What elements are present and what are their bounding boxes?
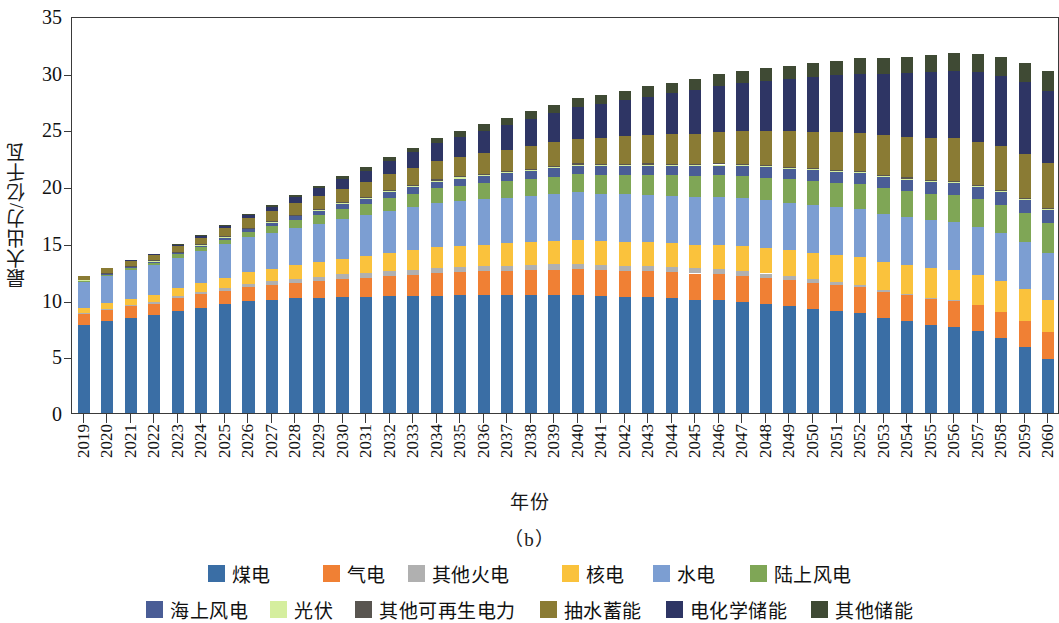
x-axis-tick (1024, 414, 1025, 423)
bar-segment (383, 192, 395, 198)
bar-segment (713, 163, 725, 164)
bar-segment (454, 295, 466, 413)
legend-item[interactable]: 海上风电 (146, 596, 248, 623)
legend-item[interactable]: 其他储能 (811, 596, 913, 623)
bar-segment (548, 142, 560, 166)
legend-item[interactable]: 光伏 (270, 596, 333, 623)
bar-segment (242, 237, 254, 272)
x-axis-tick-label: 2060 (1038, 424, 1058, 458)
x-axis-tick (342, 414, 343, 423)
bar-stack (313, 16, 325, 413)
bar-segment (289, 215, 301, 216)
legend-item[interactable]: 其他可再生电力 (355, 596, 516, 623)
bar-segment (501, 266, 513, 271)
x-axis-tick (271, 414, 272, 423)
bar-segment (1019, 198, 1031, 199)
bar-segment (548, 168, 560, 176)
bar-segment (125, 268, 137, 270)
bar-segment (501, 125, 513, 150)
legend-item[interactable]: 抽水蓄能 (540, 596, 642, 623)
bar-segment (901, 179, 913, 180)
bar-segment (736, 198, 748, 246)
bar-segment (407, 148, 419, 153)
bar-segment (572, 240, 584, 264)
y-axis-tick-label: 20 (18, 176, 62, 199)
bar-segment (266, 207, 278, 212)
bar-segment (642, 86, 654, 96)
bar-segment (830, 285, 842, 311)
legend-item[interactable]: 核电 (562, 560, 625, 587)
legend-item[interactable]: 煤电 (208, 560, 271, 587)
bar-segment (289, 220, 301, 228)
bar-segment (525, 146, 537, 169)
x-axis-tick-label: 2057 (968, 424, 988, 458)
legend-item[interactable]: 气电 (323, 560, 386, 587)
bar-segment (360, 171, 372, 182)
bar-segment (619, 166, 631, 175)
bar-segment (478, 183, 490, 199)
bar-segment (948, 71, 960, 138)
bar-segment (431, 268, 443, 273)
bar-segment (572, 98, 584, 107)
bar-segment (807, 181, 819, 205)
bar-segment (619, 266, 631, 271)
bar-segment (807, 279, 819, 282)
bar-segment (478, 245, 490, 267)
bar-segment (572, 165, 584, 166)
bar-segment (689, 268, 701, 273)
bar-segment (995, 205, 1007, 233)
bar-stack (501, 16, 513, 413)
legend-swatch-icon (270, 601, 287, 618)
bar-segment (642, 271, 654, 297)
bar-stack (807, 16, 819, 413)
bar-segment (619, 271, 631, 297)
legend-label: 其他储能 (835, 596, 913, 623)
bar-segment (548, 194, 560, 241)
legend-item[interactable]: 其他火电 (408, 560, 510, 587)
bar-segment (431, 143, 443, 161)
bar-segment (877, 290, 889, 292)
bar-segment (1042, 253, 1054, 301)
bar-segment (854, 184, 866, 209)
x-axis-tick-label: 2040 (568, 424, 588, 458)
bar-segment (431, 138, 443, 143)
bar-segment (713, 132, 725, 164)
legend-item[interactable]: 水电 (653, 560, 716, 587)
x-axis-tick-labels: 2019202020212022202320242025202620272028… (71, 424, 1059, 484)
bar-segment (148, 315, 160, 413)
bar-segment (454, 179, 466, 186)
legend-item[interactable]: 陆上风电 (750, 560, 852, 587)
bar-segment (854, 133, 866, 172)
bar-segment (383, 157, 395, 161)
bar-segment (572, 264, 584, 269)
bar-segment (925, 220, 937, 268)
x-axis-tick-label: 2023 (168, 424, 188, 458)
bar-segment (266, 285, 278, 300)
x-axis-tick (953, 414, 954, 423)
bar-segment (336, 297, 348, 413)
legend-item[interactable]: 电化学储能 (666, 596, 788, 623)
bar-segment (830, 172, 842, 183)
bar-segment (172, 254, 184, 257)
bar-segment (783, 131, 795, 166)
legend-label: 其他火电 (432, 560, 510, 587)
bar-segment (642, 135, 654, 163)
bar-segment (101, 303, 113, 309)
x-axis-tick (106, 414, 107, 423)
bar-segment (148, 265, 160, 294)
bar-segment (172, 311, 184, 413)
x-axis-tick (459, 414, 460, 423)
bar-segment (783, 203, 795, 251)
bar-segment (689, 164, 701, 165)
bar-segment (501, 171, 513, 172)
x-axis-tick (718, 414, 719, 423)
bar-segment (266, 281, 278, 284)
bar-segment (219, 304, 231, 413)
x-axis-tick (318, 414, 319, 423)
y-axis-title-text: 最大出力/亿千瓦 (3, 142, 30, 288)
bar-segment (595, 104, 607, 138)
bar-segment (736, 271, 748, 276)
x-axis-tick (883, 414, 884, 423)
bar-segment (172, 298, 184, 310)
legend-swatch-icon (653, 565, 670, 582)
